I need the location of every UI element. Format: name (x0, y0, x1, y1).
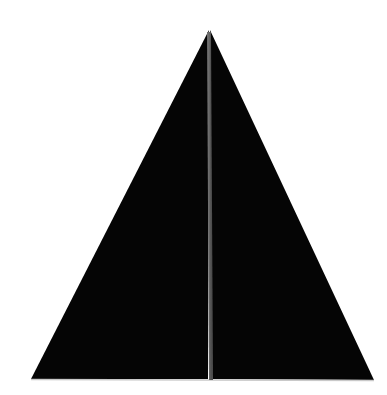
center-divider (209, 32, 211, 380)
triangle-figure (0, 0, 387, 395)
base-highlight-line (31, 380, 374, 381)
image-canvas: A solid black isosceles triangle standin… (0, 0, 387, 395)
